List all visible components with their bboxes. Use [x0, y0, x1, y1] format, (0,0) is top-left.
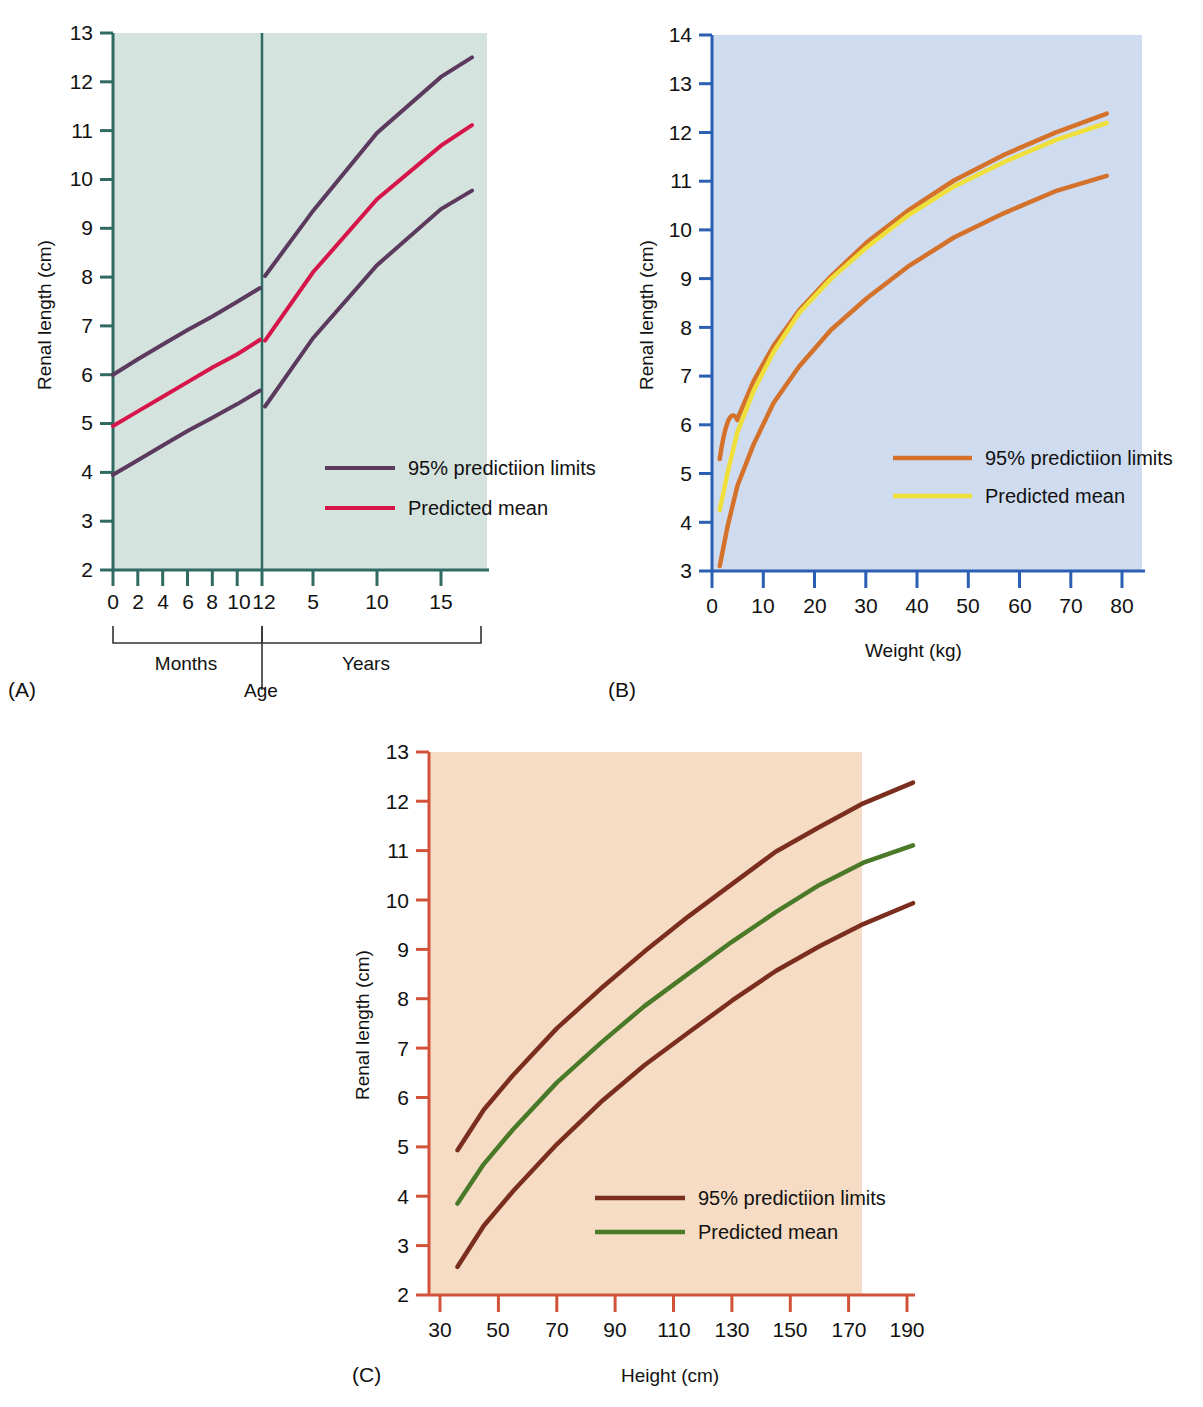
svg-text:5: 5: [680, 462, 692, 485]
svg-text:10: 10: [365, 590, 388, 613]
panel-c-y-axis-title: Renal length (cm): [352, 950, 374, 1100]
svg-text:9: 9: [680, 267, 692, 290]
svg-text:6: 6: [680, 413, 692, 436]
panel-c-x-tick-labels: 30 50 70 90 110 130 150 170 190: [428, 1318, 924, 1341]
svg-text:12: 12: [669, 121, 692, 144]
panel-c-plot: 2 3 4 5 6 7 8 9 10 11 12 13 30 50: [300, 720, 940, 1407]
svg-text:8: 8: [397, 987, 409, 1010]
svg-text:30: 30: [428, 1318, 451, 1341]
svg-text:6: 6: [397, 1086, 409, 1109]
svg-text:5: 5: [81, 411, 93, 434]
svg-text:8: 8: [206, 590, 218, 613]
panel-b-y-axis-title: Renal length (cm): [636, 240, 658, 390]
panel-b-letter: (B): [608, 678, 636, 702]
svg-text:12: 12: [70, 70, 93, 93]
panel-a-y-axis-title: Renal length (cm): [34, 240, 56, 390]
panel-b-legend-label-limits: 95% predictiion limits: [985, 447, 1173, 469]
svg-text:80: 80: [1110, 594, 1133, 617]
panel-b-y-tick-labels: 3 4 5 6 7 8 9 10 11 12 13 14: [669, 23, 693, 582]
svg-text:10: 10: [669, 218, 692, 241]
svg-text:8: 8: [81, 265, 93, 288]
panel-b-x-tick-labels: 0 10 20 30 40 50 60 70 80: [706, 594, 1134, 617]
panel-b-legend-label-mean: Predicted mean: [985, 485, 1125, 507]
panel-a-legend-label-mean: Predicted mean: [408, 497, 548, 519]
svg-text:7: 7: [680, 364, 692, 387]
panel-a-plot-background: [113, 33, 487, 570]
panel-c-x-axis-title: Height (cm): [621, 1365, 719, 1387]
svg-text:11: 11: [387, 839, 409, 862]
svg-text:10: 10: [386, 889, 409, 912]
svg-text:10: 10: [751, 594, 774, 617]
panel-a-legend-label-limits: 95% predictiion limits: [408, 457, 596, 479]
panel-c: Renal length (cm) 2 3 4 5 6 7 8: [300, 720, 940, 1407]
svg-text:6: 6: [182, 590, 194, 613]
svg-text:12: 12: [252, 590, 275, 613]
svg-text:4: 4: [397, 1185, 409, 1208]
svg-text:10: 10: [70, 167, 93, 190]
svg-text:170: 170: [831, 1318, 866, 1341]
svg-text:2: 2: [132, 590, 144, 613]
panel-a-group-label-months: Months: [155, 653, 217, 674]
panel-c-y-tick-labels: 2 3 4 5 6 7 8 9 10 11 12 13: [386, 740, 410, 1306]
svg-text:2: 2: [397, 1283, 409, 1306]
panel-b-y-ticks: [699, 35, 712, 571]
svg-text:20: 20: [803, 594, 826, 617]
svg-text:3: 3: [81, 509, 93, 532]
panel-b-x-axis-title: Weight (kg): [865, 640, 962, 662]
svg-text:13: 13: [669, 72, 692, 95]
svg-text:50: 50: [956, 594, 979, 617]
svg-text:40: 40: [905, 594, 928, 617]
svg-text:5: 5: [307, 590, 319, 613]
svg-text:70: 70: [545, 1318, 568, 1341]
panel-a-y-tick-labels: 2 3 4 5 6 7 8 9 10 11 12 13: [70, 21, 94, 581]
svg-text:6: 6: [81, 363, 93, 386]
panel-a-plot: 2 3 4 5 6 7 8 9 10 11 12 13 0 2 4 6: [0, 0, 600, 720]
svg-text:10: 10: [227, 590, 250, 613]
svg-text:7: 7: [81, 314, 93, 337]
panel-a-x-axis-title: Age: [244, 680, 278, 702]
panel-b-plot: 3 4 5 6 7 8 9 10 11 12 13 14 0 10: [600, 0, 1203, 720]
svg-text:3: 3: [397, 1234, 409, 1257]
svg-text:190: 190: [889, 1318, 924, 1341]
panel-a: Renal length (cm) 2 3 4 5: [0, 0, 600, 720]
panel-a-y-ticks: [100, 33, 113, 570]
panel-c-y-ticks: [416, 752, 429, 1295]
svg-text:9: 9: [397, 938, 409, 961]
svg-text:7: 7: [397, 1037, 409, 1060]
svg-text:110: 110: [657, 1318, 690, 1341]
svg-text:8: 8: [680, 316, 692, 339]
panel-c-legend-label-mean: Predicted mean: [698, 1221, 838, 1243]
svg-text:4: 4: [680, 511, 692, 534]
svg-text:12: 12: [386, 790, 409, 813]
svg-text:14: 14: [669, 23, 693, 46]
panel-b: Renal length (cm) 3 4 5 6 7 8 9: [600, 0, 1203, 720]
svg-text:13: 13: [70, 21, 93, 44]
svg-text:70: 70: [1059, 594, 1082, 617]
panel-c-letter: (C): [352, 1363, 381, 1387]
svg-text:15: 15: [429, 590, 452, 613]
svg-text:5: 5: [397, 1135, 409, 1158]
svg-text:0: 0: [706, 594, 718, 617]
svg-text:2: 2: [81, 558, 93, 581]
svg-text:0: 0: [107, 590, 119, 613]
panel-a-letter: (A): [8, 678, 36, 702]
svg-text:13: 13: [386, 740, 409, 763]
svg-text:90: 90: [603, 1318, 626, 1341]
panel-a-x-tick-labels-years: 5 10 15: [307, 590, 453, 613]
panel-c-x-ticks: [440, 1295, 907, 1312]
panel-c-legend-label-limits: 95% predictiion limits: [698, 1187, 886, 1209]
svg-text:11: 11: [71, 119, 93, 142]
panel-a-x-tick-labels-months: 0 2 4 6 8 10 12: [107, 590, 276, 613]
panel-a-x-ticks-years: [313, 570, 441, 586]
panel-b-x-ticks: [712, 571, 1122, 588]
svg-text:130: 130: [714, 1318, 749, 1341]
svg-text:50: 50: [486, 1318, 509, 1341]
svg-text:11: 11: [670, 169, 692, 192]
svg-text:150: 150: [772, 1318, 807, 1341]
panel-a-x-ticks-months: [113, 570, 262, 586]
svg-text:30: 30: [854, 594, 877, 617]
svg-text:3: 3: [680, 559, 692, 582]
panel-a-group-label-years: Years: [342, 653, 390, 674]
svg-text:4: 4: [81, 460, 93, 483]
svg-text:4: 4: [157, 590, 169, 613]
